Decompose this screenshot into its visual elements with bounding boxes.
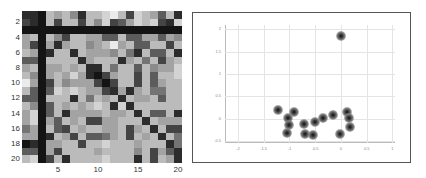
heatmap-cell bbox=[62, 34, 70, 42]
heatmap-cell bbox=[46, 148, 54, 156]
heatmap-cell bbox=[30, 133, 38, 141]
heatmap-cell bbox=[94, 95, 102, 103]
heatmap-cell bbox=[38, 34, 46, 42]
heatmap-cell bbox=[166, 117, 174, 125]
heatmap-y-tick: 18 bbox=[4, 140, 20, 148]
heatmap-cell bbox=[30, 49, 38, 57]
heatmap-cell bbox=[174, 79, 182, 87]
heatmap-cell bbox=[126, 133, 134, 141]
heatmap-cell bbox=[46, 133, 54, 141]
heatmap-cell bbox=[174, 117, 182, 125]
heatmap-cell bbox=[134, 49, 142, 57]
scatter-x-axis-line bbox=[225, 142, 395, 143]
heatmap-cell bbox=[62, 155, 70, 163]
heatmap-cell bbox=[46, 72, 54, 80]
heatmap-cell bbox=[150, 64, 158, 72]
heatmap-cell bbox=[86, 95, 94, 103]
heatmap-cell bbox=[118, 64, 126, 72]
heatmap-cell bbox=[126, 155, 134, 163]
heatmap-cell bbox=[134, 64, 142, 72]
heatmap-cell bbox=[102, 87, 110, 95]
heatmap-cell bbox=[126, 148, 134, 156]
scatter-panel: -2-1.5-1-0.500.5121.510.50-0.5 bbox=[192, 12, 411, 163]
heatmap-cell bbox=[174, 155, 182, 163]
heatmap-cell bbox=[22, 34, 30, 42]
heatmap-cell bbox=[70, 19, 78, 27]
scatter-grid-horizontal bbox=[225, 96, 395, 97]
heatmap-cell bbox=[134, 57, 142, 65]
heatmap-cell bbox=[134, 133, 142, 141]
scatter-point bbox=[345, 122, 355, 132]
heatmap-cell bbox=[38, 26, 46, 34]
heatmap-cell bbox=[46, 125, 54, 133]
heatmap-cell bbox=[174, 133, 182, 141]
heatmap-cell bbox=[166, 87, 174, 95]
heatmap-cell bbox=[134, 125, 142, 133]
heatmap-cell bbox=[150, 11, 158, 19]
heatmap-cell bbox=[22, 102, 30, 110]
heatmap-cell bbox=[70, 155, 78, 163]
heatmap-cell bbox=[174, 26, 182, 34]
heatmap-cell bbox=[150, 79, 158, 87]
heatmap-cell bbox=[166, 148, 174, 156]
heatmap-cell bbox=[78, 125, 86, 133]
heatmap-cell bbox=[174, 102, 182, 110]
heatmap-cell bbox=[102, 110, 110, 118]
heatmap-cell bbox=[134, 155, 142, 163]
heatmap-cell bbox=[102, 140, 110, 148]
heatmap-cell bbox=[46, 57, 54, 65]
scatter-grid-vertical bbox=[264, 25, 265, 143]
heatmap-cell bbox=[62, 125, 70, 133]
heatmap-cell bbox=[62, 110, 70, 118]
heatmap-cell bbox=[62, 57, 70, 65]
heatmap-cell bbox=[174, 49, 182, 57]
heatmap-cell bbox=[54, 26, 62, 34]
heatmap-cell bbox=[22, 110, 30, 118]
heatmap-cell bbox=[102, 64, 110, 72]
heatmap-cell bbox=[142, 140, 150, 148]
heatmap-cell bbox=[30, 155, 38, 163]
heatmap-cell bbox=[174, 41, 182, 49]
scatter-y-tick: 1.5 bbox=[203, 50, 221, 54]
heatmap-cell bbox=[94, 41, 102, 49]
scatter-y-tick: 0.5 bbox=[203, 94, 221, 98]
scatter-grid-vertical bbox=[238, 25, 239, 143]
heatmap-cell bbox=[142, 133, 150, 141]
heatmap-cell bbox=[22, 125, 30, 133]
heatmap-cell bbox=[70, 72, 78, 80]
heatmap-cell bbox=[150, 102, 158, 110]
heatmap-cell bbox=[86, 110, 94, 118]
heatmap-cell bbox=[142, 72, 150, 80]
heatmap-cell bbox=[94, 140, 102, 148]
heatmap-cell bbox=[46, 117, 54, 125]
heatmap-cell bbox=[78, 19, 86, 27]
heatmap-cell bbox=[70, 102, 78, 110]
heatmap-cell bbox=[30, 148, 38, 156]
heatmap-cell bbox=[54, 125, 62, 133]
heatmap-cell bbox=[158, 87, 166, 95]
heatmap-cell bbox=[150, 110, 158, 118]
heatmap-cell bbox=[110, 110, 118, 118]
heatmap-cell bbox=[158, 140, 166, 148]
heatmap-cell bbox=[142, 125, 150, 133]
heatmap-cell bbox=[150, 57, 158, 65]
heatmap-cell bbox=[94, 155, 102, 163]
heatmap-cell bbox=[118, 26, 126, 34]
heatmap-cell bbox=[126, 64, 134, 72]
heatmap-cell bbox=[30, 64, 38, 72]
heatmap-cell bbox=[54, 11, 62, 19]
heatmap-cell bbox=[110, 140, 118, 148]
heatmap-cell bbox=[134, 148, 142, 156]
heatmap-cell bbox=[102, 57, 110, 65]
heatmap-cell bbox=[158, 117, 166, 125]
heatmap-cell bbox=[22, 26, 30, 34]
heatmap-cell bbox=[150, 133, 158, 141]
heatmap-cell bbox=[134, 11, 142, 19]
scatter-grid-horizontal bbox=[225, 52, 395, 53]
heatmap-cell bbox=[158, 72, 166, 80]
scatter-point bbox=[335, 129, 345, 139]
heatmap-y-tick: 12 bbox=[4, 94, 20, 102]
heatmap-cell bbox=[102, 41, 110, 49]
heatmap-cell bbox=[54, 117, 62, 125]
heatmap-cell bbox=[174, 125, 182, 133]
